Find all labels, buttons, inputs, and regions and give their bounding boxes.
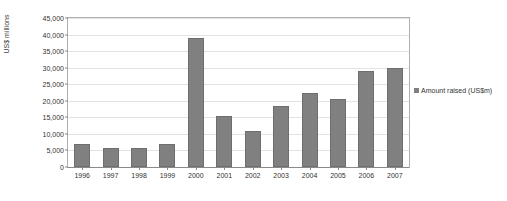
bar	[273, 106, 289, 167]
y-tick-label: 5,000	[46, 147, 64, 154]
x-tick-mark	[139, 167, 140, 170]
x-tick-mark	[111, 167, 112, 170]
legend-label: Amount raised (US$m)	[421, 87, 492, 94]
bar	[74, 144, 90, 167]
bar	[302, 93, 318, 168]
x-axis-line	[68, 167, 409, 168]
x-tick-label: 2002	[245, 172, 261, 179]
y-tick-label: 15,000	[43, 114, 64, 121]
bars-layer	[68, 18, 409, 167]
x-tick-label: 2004	[302, 172, 318, 179]
x-tick-mark	[82, 167, 83, 170]
bar	[387, 68, 403, 167]
bar	[330, 99, 346, 167]
x-tick-label: 2003	[273, 172, 289, 179]
x-tick-label: 1996	[74, 172, 90, 179]
legend: Amount raised (US$m)	[414, 87, 492, 94]
y-tick-label: 0	[60, 164, 64, 171]
x-tick-label: 1999	[160, 172, 176, 179]
y-tick-label: 10,000	[43, 130, 64, 137]
x-tick-label: 2000	[188, 172, 204, 179]
y-tick-label: 25,000	[43, 81, 64, 88]
bar	[358, 71, 374, 167]
x-tick-label: 2007	[387, 172, 403, 179]
x-tick-mark	[196, 167, 197, 170]
y-axis-title: US$ millions	[0, 0, 14, 69]
x-tick-label: 1997	[103, 172, 119, 179]
y-tick-label: 45,000	[43, 15, 64, 22]
bar	[216, 116, 232, 167]
bar	[188, 38, 204, 167]
y-tick-label: 40,000	[43, 31, 64, 38]
bar	[159, 144, 175, 168]
x-tick-mark	[281, 167, 282, 170]
x-tick-label: 1998	[131, 172, 147, 179]
bar	[131, 148, 147, 167]
x-tick-mark	[366, 167, 367, 170]
y-tick-label: 30,000	[43, 64, 64, 71]
x-tick-label: 2006	[359, 172, 375, 179]
bar	[245, 131, 261, 167]
x-tick-mark	[167, 167, 168, 170]
x-tick-mark	[310, 167, 311, 170]
bar	[103, 148, 119, 167]
legend-swatch-icon	[414, 88, 419, 93]
y-tick-label: 35,000	[43, 48, 64, 55]
y-tick-label: 20,000	[43, 97, 64, 104]
bar-chart: US$ millions 05,00010,00015,00020,00025,…	[0, 0, 507, 201]
plot-area: 05,00010,00015,00020,00025,00030,00035,0…	[67, 17, 410, 168]
x-tick-mark	[253, 167, 254, 170]
x-tick-mark	[224, 167, 225, 170]
x-tick-mark	[338, 167, 339, 170]
x-tick-mark	[395, 167, 396, 170]
x-tick-label: 2005	[330, 172, 346, 179]
x-tick-label: 2001	[216, 172, 232, 179]
